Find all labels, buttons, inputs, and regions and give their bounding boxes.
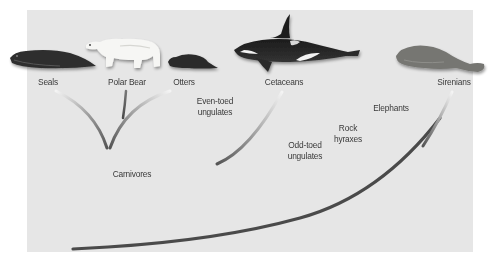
sirenians-branch: [423, 92, 452, 146]
seal-illustration: [10, 50, 96, 68]
even-toed-label: Even-toed ungulates: [193, 95, 237, 117]
odd-toed-line2: ungulates: [283, 150, 327, 161]
even-toed-line1: Even-toed: [193, 95, 237, 106]
orca-illustration: [234, 14, 360, 72]
seals-label: Seals: [32, 76, 64, 87]
polar-bear-label: Polar Bear: [105, 76, 149, 87]
odd-toed-line1: Odd-toed: [283, 139, 327, 150]
cetaceans-label: Cetaceans: [261, 76, 307, 87]
polar-bear-branch: [123, 91, 126, 118]
otters-branch: [110, 91, 170, 148]
otter-illustration: [168, 54, 218, 68]
elephants-label: Elephants: [369, 102, 413, 113]
manatee-illustration: [396, 46, 484, 72]
phylogenetic-tree: [0, 0, 495, 257]
seals-branch: [56, 91, 107, 148]
polar-bear-illustration: [86, 39, 160, 68]
rock-hyraxes-line1: Rock: [329, 122, 368, 133]
root-branch: [73, 118, 440, 249]
sirenians-label: Sirenians: [435, 76, 474, 87]
rock-hyraxes-line2: hyraxes: [329, 133, 368, 144]
otters-label: Otters: [168, 76, 200, 87]
odd-toed-label: Odd-toed ungulates: [283, 139, 327, 161]
carnivores-label: Carnivores: [113, 168, 152, 179]
rock-hyraxes-label: Rock hyraxes: [329, 122, 368, 144]
even-toed-line2: ungulates: [193, 106, 237, 117]
